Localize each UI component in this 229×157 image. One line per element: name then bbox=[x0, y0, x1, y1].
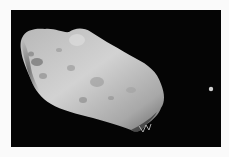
asteroid bbox=[21, 29, 164, 132]
asteroid-photo bbox=[11, 10, 221, 147]
moon bbox=[209, 87, 213, 91]
asteroid-illustration bbox=[11, 10, 221, 147]
